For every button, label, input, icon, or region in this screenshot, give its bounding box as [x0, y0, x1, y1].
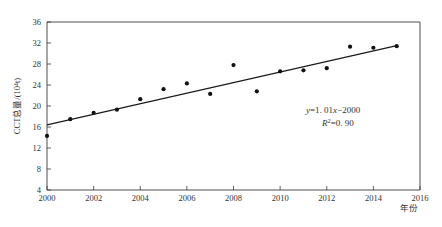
data-point — [348, 45, 352, 49]
data-point — [138, 97, 142, 101]
data-point — [161, 87, 165, 91]
x-tick-label: 2002 — [85, 193, 102, 203]
data-point — [301, 68, 305, 72]
y-tick-label: 28 — [33, 59, 42, 69]
y-tick-label: 20 — [33, 101, 42, 111]
data-point — [185, 81, 189, 85]
y-tick-label: 8 — [37, 164, 41, 174]
y-tick-label: 36 — [33, 17, 42, 27]
scatter-plot-svg: 4812162024283236 20002002200420062008201… — [0, 0, 442, 227]
data-point — [255, 89, 259, 93]
y-tick-label: 12 — [33, 143, 42, 153]
x-tick-label: 2004 — [132, 193, 150, 203]
x-tick-label: 2012 — [318, 193, 335, 203]
chart-figure: 4812162024283236 20002002200420062008201… — [0, 0, 442, 227]
r-equals: =0. 90 — [331, 118, 355, 128]
x-tick-label: 2016 — [412, 193, 429, 203]
x-tick-label: 2010 — [272, 193, 289, 203]
x-tick-label: 2014 — [365, 193, 383, 203]
data-point — [231, 63, 235, 67]
data-point — [278, 69, 282, 73]
equation-body: =1. 01 — [310, 105, 333, 115]
data-point — [115, 108, 119, 112]
x-axis-title: 年份 — [400, 203, 418, 213]
y-tick-label: 32 — [33, 38, 42, 48]
equation-tail: −2000 — [337, 105, 361, 115]
y-tick-label: 16 — [33, 122, 42, 132]
data-point — [395, 44, 399, 48]
data-point — [208, 92, 212, 96]
data-point — [45, 134, 49, 138]
x-tick-label: 2000 — [39, 193, 56, 203]
data-point — [325, 66, 329, 70]
x-tick-label: 2006 — [178, 193, 195, 203]
y-tick-label: 24 — [33, 80, 42, 90]
regression-equation: y=1. 01x−2000 — [305, 105, 361, 115]
r-squared-value: R2=0. 90 — [321, 117, 354, 128]
y-axis-title: CCT总量/(10⁴t) — [12, 78, 22, 135]
x-tick-label: 2008 — [225, 193, 242, 203]
data-point — [371, 46, 375, 50]
data-point — [68, 117, 72, 121]
data-point — [92, 111, 96, 115]
